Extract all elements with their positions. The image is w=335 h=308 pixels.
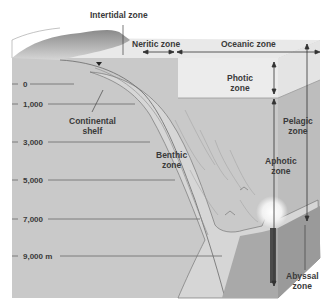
label-pelagic-line2: zone — [283, 127, 313, 137]
label-pelagic-zone: Pelagic zone — [283, 117, 313, 136]
depth-label-3000: 3,000 — [23, 138, 43, 147]
depth-label-7000: 7,000 — [23, 215, 43, 224]
label-neritic-zone: Neritic zone — [132, 40, 180, 50]
depth-label-0: 0 — [23, 80, 27, 89]
ocean-zones-diagram: Intertidal zone Neritic zone Oceanic zon… — [0, 0, 335, 308]
label-intertidal-zone: Intertidal zone — [90, 11, 148, 21]
label-abyssal-zone: Abyssal zone — [286, 272, 319, 291]
hydrothermal-vent-column — [270, 228, 276, 283]
label-aphotic-line2: zone — [265, 167, 297, 177]
label-continental-shelf: Continental shelf — [69, 117, 116, 136]
vent-plume — [256, 196, 288, 228]
label-benthic-line2: zone — [156, 161, 187, 171]
depth-label-5000: 5,000 — [23, 176, 43, 185]
depth-label-9000: 9,000 m — [23, 252, 52, 261]
label-photic-line2: zone — [227, 84, 253, 94]
label-abyssal-line2: zone — [286, 282, 319, 292]
label-shelf-line2: shelf — [69, 127, 116, 137]
label-oceanic-zone: Oceanic zone — [221, 40, 276, 50]
label-aphotic-zone: Aphotic zone — [265, 157, 297, 176]
label-benthic-zone: Benthic zone — [156, 151, 187, 170]
depth-label-1000: 1,000 — [23, 100, 43, 109]
label-photic-zone: Photic zone — [227, 74, 253, 93]
